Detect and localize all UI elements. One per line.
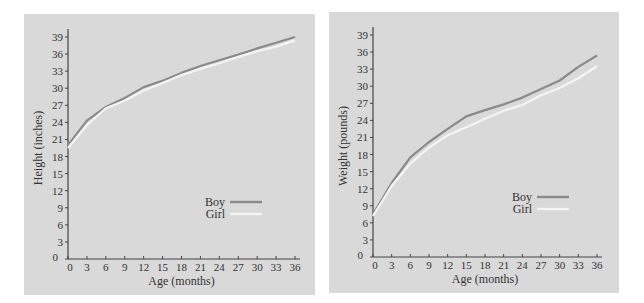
y-tick-label: 27: [357, 97, 369, 109]
x-tick-label: 3: [389, 259, 395, 271]
x-tick-label: 30: [554, 259, 566, 271]
y-tick-label: 9: [58, 202, 64, 214]
x-tick-label: 9: [122, 261, 128, 273]
y-tick-label: 6: [58, 219, 64, 231]
y-tick-label: 12: [357, 183, 368, 195]
x-tick-label: 36: [592, 259, 604, 271]
x-tick-label: 21: [498, 259, 509, 271]
y-tick-label: 18: [357, 149, 369, 161]
y-tick-label: 27: [52, 99, 64, 111]
x-tick-label: 15: [157, 261, 169, 273]
line-boy: [373, 56, 597, 215]
x-tick-label: 24: [517, 259, 529, 271]
x-tick-label: 0: [67, 261, 73, 273]
y-tick-label: 33: [52, 65, 64, 77]
y-tick-label: 21: [52, 133, 63, 145]
x-tick-label: 3: [84, 261, 90, 273]
y-tick-label: 30: [52, 82, 64, 94]
y-tick-label: 9: [363, 200, 369, 212]
x-axis-title: Age (months): [452, 272, 518, 286]
x-tick-label: 27: [536, 259, 548, 271]
legend: BoyGirl: [205, 195, 262, 221]
y-tick-label: 0: [358, 249, 364, 261]
x-tick-label: 0: [372, 259, 378, 271]
legend-label-girl: Girl: [206, 207, 226, 221]
line-girl: [373, 66, 597, 216]
x-tick-label: 12: [138, 261, 149, 273]
x-tick-label: 36: [290, 261, 302, 273]
x-tick-label: 6: [103, 261, 109, 273]
y-axis-title: Weight (pounds): [336, 106, 350, 186]
y-tick-label: 12: [52, 185, 63, 197]
y-tick-label: 33: [357, 63, 369, 75]
y-tick-label: 15: [52, 168, 64, 180]
x-tick-label: 33: [573, 259, 585, 271]
y-tick-label: 39: [357, 29, 369, 41]
x-tick-label: 33: [271, 261, 283, 273]
x-tick-label: 30: [252, 261, 264, 273]
x-tick-label: 12: [442, 259, 453, 271]
x-tick-label: 9: [426, 259, 432, 271]
x-tick-label: 21: [195, 261, 206, 273]
y-tick-label: 15: [357, 166, 369, 178]
x-tick-label: 24: [214, 261, 226, 273]
y-tick-label: 21: [357, 131, 368, 143]
x-tick-label: 6: [408, 259, 414, 271]
y-tick-label: 3: [58, 236, 64, 248]
legend: BoyGirl: [512, 190, 569, 216]
y-tick-label: 24: [52, 116, 64, 128]
y-tick-label: 39: [52, 31, 64, 43]
line-boy: [68, 37, 295, 145]
x-tick-label: 18: [480, 259, 492, 271]
x-tick-label: 27: [233, 261, 245, 273]
x-tick-label: 15: [461, 259, 473, 271]
y-tick-label: 18: [52, 151, 64, 163]
line-girl: [68, 40, 295, 148]
y-tick-label: 3: [363, 234, 369, 246]
charts-canvas: 0369121518212427303336390369121518212427…: [0, 0, 644, 303]
x-tick-label: 18: [176, 261, 188, 273]
y-axis-title: Height (inches): [31, 111, 45, 185]
height-chart: 0369121518212427303336390369121518212427…: [31, 29, 301, 288]
y-tick-label: 6: [363, 217, 369, 229]
y-tick-label: 36: [357, 46, 369, 58]
weight-chart: 0369121518212427303336390369121518212427…: [336, 27, 603, 286]
y-tick-label: 36: [52, 48, 64, 60]
y-tick-label: 0: [53, 251, 59, 263]
y-tick-label: 24: [357, 114, 369, 126]
x-axis-title: Age (months): [148, 274, 214, 288]
y-tick-label: 30: [357, 80, 369, 92]
legend-label-girl: Girl: [513, 202, 533, 216]
